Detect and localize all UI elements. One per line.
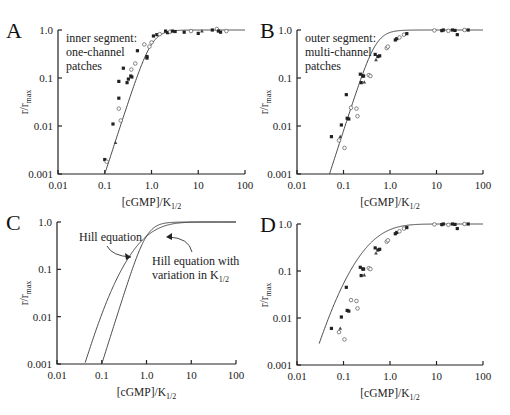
y-tick-label: 0.01 — [33, 311, 52, 323]
data-point-open — [349, 298, 353, 302]
data-point-filled — [467, 28, 470, 31]
x-axis-title-sub: 1/2 — [166, 392, 176, 401]
y-axis-title: r/rmax — [258, 283, 273, 308]
data-point-filled — [127, 77, 130, 80]
data-point-triangle — [338, 326, 342, 329]
annotation-hill-variation-line2: variation in K1/2 — [152, 268, 229, 284]
data-point-open — [356, 114, 360, 118]
x-tick-label: 0.1 — [337, 179, 351, 191]
data-point-filled — [405, 32, 408, 35]
y-axis-title-sub: max — [24, 281, 33, 295]
data-point-open — [356, 307, 360, 311]
x-tick-label: 0.1 — [98, 179, 112, 191]
x-tick-label: 0.01 — [287, 370, 306, 382]
data-point-filled — [330, 135, 333, 138]
x-tick-label: 100 — [237, 179, 254, 191]
x-tick-label: 10 — [186, 369, 198, 381]
panel-annotation-line: patches — [66, 59, 102, 73]
data-point-filled — [117, 80, 120, 83]
y-tick-label: 0.001 — [267, 168, 292, 180]
data-point-filled — [347, 310, 350, 313]
data-point-open — [369, 74, 373, 78]
data-point-open — [142, 43, 146, 47]
y-axis-title-sub: max — [24, 90, 33, 104]
data-point-open — [447, 29, 451, 33]
y-tick-label: 0.01 — [273, 120, 292, 132]
data-point-open — [386, 45, 390, 49]
x-tick-label: 0.01 — [48, 179, 67, 191]
x-tick-label: 10 — [431, 370, 443, 382]
x-axis-title-sub: 1/2 — [171, 202, 181, 211]
y-tick-label: 0.01 — [273, 312, 292, 324]
data-point-open — [119, 119, 123, 123]
data-point-open — [225, 29, 229, 33]
data-point-filled — [360, 274, 363, 277]
data-point-filled — [374, 53, 377, 56]
data-point-filled — [442, 222, 445, 225]
y-tick-label: 1.0 — [278, 24, 292, 36]
y-tick-label: 0.001 — [267, 359, 292, 371]
x-axis-title-sub: 1/2 — [409, 393, 419, 402]
data-point-filled — [442, 28, 445, 31]
data-point-filled — [453, 29, 456, 32]
data-point-filled — [174, 30, 177, 33]
x-tick-label: 100 — [475, 179, 492, 191]
data-point-open — [433, 29, 437, 33]
panel-annotation-line: one-channel — [66, 45, 125, 59]
y-axis-title-sub: max — [264, 283, 273, 297]
data-point-filled — [211, 28, 214, 31]
data-point-filled — [117, 97, 120, 100]
annotation-hill-equation: Hill equation — [79, 230, 142, 244]
data-point-triangle — [374, 58, 378, 61]
x-tick-label: 1.0 — [145, 179, 159, 191]
y-axis-title: r/rmax — [258, 90, 273, 115]
x-tick-label: 100 — [228, 369, 245, 381]
data-point-filled — [197, 32, 200, 35]
data-point-open — [386, 238, 390, 242]
y-tick-label: 0.1 — [38, 263, 52, 275]
panel-c: C0.010.11.0101000.0010.010.11.0[cGMP]/K1… — [6, 210, 245, 401]
data-point-open — [148, 45, 152, 49]
x-tick-label: 0.1 — [337, 370, 351, 382]
annotation-text: variation in K — [152, 268, 219, 282]
data-point-filled — [330, 327, 333, 330]
data-point-filled — [378, 248, 381, 251]
data-point-triangle — [362, 80, 366, 83]
panel-annotation-line: outer segment: — [305, 31, 376, 45]
data-point-open — [369, 267, 373, 271]
data-point-open — [150, 41, 154, 45]
panel-letter: C — [6, 210, 21, 235]
data-point-filled — [362, 267, 365, 270]
y-tick-label: 1.0 — [278, 218, 292, 230]
x-axis-title-main: [cGMP]/K — [360, 387, 410, 399]
arrow-hill-variation — [169, 237, 192, 252]
data-point-open — [463, 28, 467, 32]
data-point-open — [433, 223, 437, 227]
y-tick-label: 0.001 — [28, 168, 53, 180]
x-tick-label: 0.01 — [287, 179, 306, 191]
data-point-open — [189, 29, 193, 33]
y-tick-label: 0.001 — [27, 358, 52, 370]
data-point-open — [447, 223, 451, 227]
data-point-filled — [152, 34, 155, 37]
panel-a: A0.010.11.0101000.0010.010.11.0[cGMP]/K1… — [6, 18, 254, 211]
annotation-subscript: 1/2 — [219, 275, 229, 284]
data-point-filled — [456, 227, 459, 230]
x-tick-label: 0.01 — [47, 369, 66, 381]
y-axis-title-sub: max — [264, 90, 273, 104]
x-axis-title: [cGMP]/K1/2 — [117, 386, 176, 401]
data-point-filled — [362, 74, 365, 77]
panel-annotation-line: inner segment: — [66, 31, 137, 45]
data-point-open — [105, 160, 109, 164]
x-axis-title-main: [cGMP]/K — [117, 386, 167, 398]
panel-annotation-line: patches — [305, 59, 341, 73]
y-axis-title: r/rmax — [18, 90, 33, 115]
data-point-filled — [345, 286, 348, 289]
panel-annotation-line: multi-channel — [305, 45, 372, 59]
data-point-filled — [340, 123, 343, 126]
data-point-filled — [183, 31, 186, 34]
y-tick-label: 0.1 — [278, 265, 292, 277]
x-axis-title: [cGMP]/K1/2 — [360, 196, 419, 211]
y-tick-label: 1.0 — [38, 216, 52, 228]
data-point-filled — [136, 49, 139, 52]
